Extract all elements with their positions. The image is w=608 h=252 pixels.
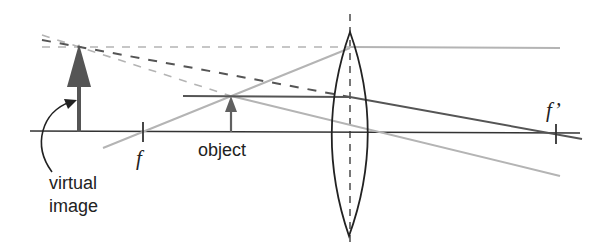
light-ray-parallel-out bbox=[350, 47, 560, 48]
optical-axis bbox=[30, 131, 580, 133]
light-ray-center bbox=[231, 96, 560, 176]
focal-label-right: f’ bbox=[546, 98, 561, 123]
image-arrow-head bbox=[67, 44, 91, 87]
object-label: object bbox=[198, 139, 246, 161]
dark-ray-parallel-in bbox=[183, 96, 350, 97]
focal-label-left: f bbox=[136, 146, 142, 171]
virtual-image-label-line1: virtual bbox=[49, 172, 97, 194]
virtual-image-label-line2: image bbox=[49, 195, 98, 217]
virtual-ray-dashed-dark bbox=[42, 40, 350, 97]
pointer-curve bbox=[42, 102, 70, 172]
light-ray-focal-in bbox=[103, 48, 350, 148]
